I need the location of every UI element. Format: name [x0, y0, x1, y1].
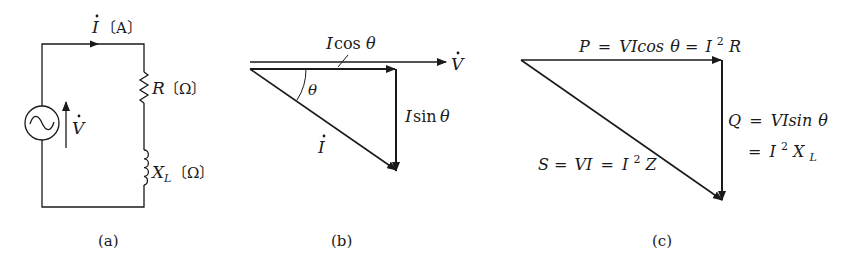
- icos-func: cos: [334, 34, 361, 53]
- resistor-icon: [140, 72, 148, 103]
- apparent-power-arrow: [521, 60, 722, 200]
- phasor-b-labels: I cos θ V θ I sin θ I (b): [308, 33, 465, 250]
- phasor-dot-icon: [78, 115, 81, 118]
- power-triangle-c: [521, 60, 722, 200]
- isin-func: sin: [413, 107, 437, 126]
- phasor-dot-icon: [457, 52, 460, 55]
- caption-b: (b): [331, 232, 352, 250]
- power-c-labels: P = VIcos θ = I 2 R Q = VIsin θ = I 2 X …: [538, 30, 828, 250]
- current-unit: 〔A〕: [101, 19, 142, 37]
- current-arrow-icon: [90, 41, 99, 48]
- s-equation: S = VI = I 2 Z: [538, 148, 658, 174]
- wire-bottom: [42, 140, 144, 207]
- isin-symbol: I: [404, 106, 412, 126]
- inductor-icon: [144, 150, 148, 185]
- angle-arc-icon: [297, 69, 306, 100]
- sine-wave-icon: [30, 116, 54, 129]
- q-equation-line1: Q = VIsin θ: [728, 111, 828, 130]
- current-symbol: I: [91, 17, 99, 37]
- inductor-symbol: X: [150, 162, 165, 182]
- voltage-phasor-label: V: [451, 54, 465, 74]
- caption-c: (c): [652, 232, 672, 250]
- circuit-diagram-a: [25, 41, 148, 208]
- inductor-subscript: L: [163, 172, 171, 185]
- phasor-dot-icon: [323, 135, 326, 138]
- angle-label: θ: [308, 81, 317, 99]
- isin-angle: θ: [440, 107, 450, 126]
- caption-a: (a): [98, 232, 119, 250]
- icos-leader-line: [338, 55, 348, 67]
- phasor-dot-icon: [96, 15, 99, 18]
- q-equation-line2: = I 2 X L: [748, 135, 817, 164]
- resistor-symbol: R: [151, 78, 165, 98]
- icos-symbol: I: [325, 33, 333, 53]
- resistor-unit: 〔Ω〕: [164, 80, 206, 98]
- voltage-symbol: V: [72, 118, 86, 138]
- circuit-a-labels: I 〔A〕 R 〔Ω〕 X L 〔Ω〕 V (a): [72, 15, 214, 250]
- figure-canvas: I 〔A〕 R 〔Ω〕 X L 〔Ω〕 V (a) I cos θ V θ I …: [0, 0, 847, 268]
- wire-top: [42, 44, 144, 106]
- current-phasor-label: I: [317, 137, 325, 157]
- inductor-unit: 〔Ω〕: [172, 164, 214, 182]
- p-equation: P = VIcos θ = I 2 R: [578, 30, 741, 56]
- icos-angle: θ: [366, 34, 376, 53]
